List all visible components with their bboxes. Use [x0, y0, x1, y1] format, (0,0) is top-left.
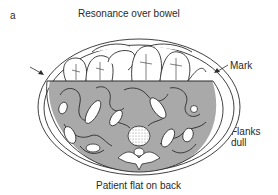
abdomen-cross-section-diagram	[0, 0, 278, 195]
vertebral-body	[128, 126, 150, 146]
left-arrow	[30, 67, 44, 75]
spinal-canal	[134, 148, 144, 156]
